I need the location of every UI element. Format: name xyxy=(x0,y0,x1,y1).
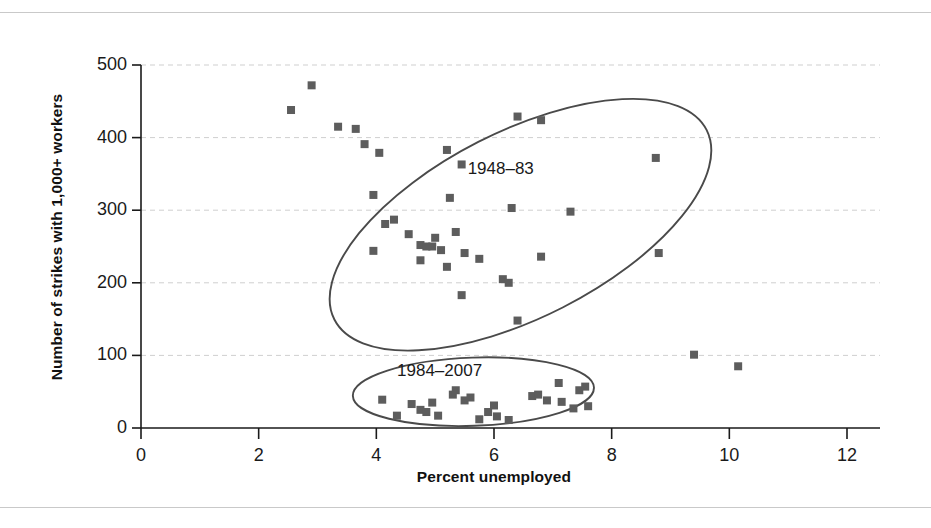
data-point xyxy=(375,149,383,157)
data-point xyxy=(458,291,466,299)
data-point xyxy=(493,412,501,420)
data-point xyxy=(558,398,566,406)
x-tick-label-0: 0 xyxy=(121,445,161,466)
x-tick-label-8: 8 xyxy=(592,445,632,466)
cluster-ellipse-0 xyxy=(292,47,749,402)
y-tick-label-300: 300 xyxy=(61,199,127,220)
data-point xyxy=(508,204,516,212)
data-point xyxy=(734,362,742,370)
cluster-ellipses-group xyxy=(292,47,749,430)
data-point xyxy=(437,246,445,254)
data-point xyxy=(505,279,513,287)
data-point xyxy=(378,396,386,404)
x-tick-label-12: 12 xyxy=(827,445,867,466)
y-tick-label-200: 200 xyxy=(61,272,127,293)
data-point xyxy=(466,394,474,402)
data-point xyxy=(334,123,342,131)
data-point xyxy=(443,263,451,271)
data-point xyxy=(431,234,439,242)
x-tick-label-10: 10 xyxy=(709,445,749,466)
y-axis-title: Number of strikes with 1,000+ workers xyxy=(48,42,66,432)
data-point xyxy=(390,216,398,224)
data-point xyxy=(452,228,460,236)
data-point xyxy=(581,383,589,391)
data-point xyxy=(452,386,460,394)
data-point xyxy=(308,81,316,89)
y-tick-label-500: 500 xyxy=(61,54,127,75)
data-point xyxy=(381,220,389,228)
data-point xyxy=(369,247,377,255)
data-points-group xyxy=(287,81,742,424)
data-point xyxy=(475,255,483,263)
data-point xyxy=(458,160,466,168)
data-point xyxy=(555,379,563,387)
data-point xyxy=(514,113,522,121)
data-point xyxy=(361,140,369,148)
data-point xyxy=(475,415,483,423)
data-point xyxy=(461,249,469,257)
data-point xyxy=(655,249,663,257)
data-point xyxy=(537,116,545,124)
data-point xyxy=(569,404,577,412)
data-point xyxy=(287,106,295,114)
data-point xyxy=(422,408,430,416)
data-point xyxy=(690,351,698,359)
data-point xyxy=(490,401,498,409)
data-point xyxy=(543,396,551,404)
axes-group xyxy=(132,65,880,439)
x-tick-label-6: 6 xyxy=(474,445,514,466)
data-point xyxy=(443,146,451,154)
data-point xyxy=(446,194,454,202)
data-point xyxy=(405,230,413,238)
data-point xyxy=(584,402,592,410)
cluster-label-1: 1984–2007 xyxy=(397,361,482,381)
data-point xyxy=(566,208,574,216)
data-point xyxy=(416,256,424,264)
chart-figure: 0100200300400500 024681012 1948–831984–2… xyxy=(0,0,931,528)
y-tick-label-100: 100 xyxy=(61,344,127,365)
data-point xyxy=(393,412,401,420)
data-point xyxy=(514,317,522,325)
y-tick-label-400: 400 xyxy=(61,127,127,148)
x-tick-label-4: 4 xyxy=(356,445,396,466)
cluster-label-0: 1948–83 xyxy=(468,159,534,179)
data-point xyxy=(537,253,545,261)
data-point xyxy=(652,154,660,162)
data-point xyxy=(428,399,436,407)
x-axis-title: Percent unemployed xyxy=(141,468,847,486)
data-point xyxy=(369,191,377,199)
data-point xyxy=(408,400,416,408)
data-point xyxy=(534,391,542,399)
data-point xyxy=(352,125,360,133)
data-point xyxy=(505,416,513,424)
data-point xyxy=(428,243,436,251)
data-point xyxy=(434,412,442,420)
x-tick-label-2: 2 xyxy=(239,445,279,466)
y-tick-label-0: 0 xyxy=(61,417,127,438)
